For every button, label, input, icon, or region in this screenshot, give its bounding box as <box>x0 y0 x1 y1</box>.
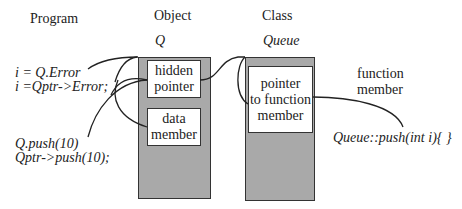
curve-class-to-ptf <box>238 57 248 104</box>
connector-curves <box>0 0 462 209</box>
curve-ptf-to-function <box>313 97 403 127</box>
curve-error-arrow <box>111 57 147 95</box>
curve-push-arrow <box>115 80 147 127</box>
curve-push-dot <box>88 80 147 137</box>
